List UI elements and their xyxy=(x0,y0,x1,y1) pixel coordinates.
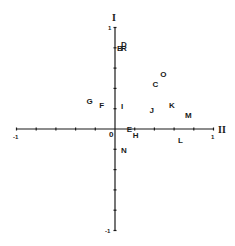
point-label-f: F xyxy=(99,101,104,110)
point-label-n: N xyxy=(121,146,127,155)
point-label-c: C xyxy=(152,80,158,89)
origin-label: 0 xyxy=(109,130,114,139)
point-label-k: K xyxy=(169,101,175,110)
y-max-tick-label: 1 xyxy=(108,25,112,31)
horizontal-axis-label: II xyxy=(218,124,226,135)
point-label-h: H xyxy=(133,131,139,140)
x-max-tick-label: 1 xyxy=(211,134,215,140)
point-label-i: I xyxy=(121,102,123,111)
point-labels: DBROCGFIJKMEHLN xyxy=(86,40,191,156)
x-min-tick-label: -1 xyxy=(13,134,19,140)
y-min-tick-label: -1 xyxy=(105,228,111,234)
point-label-m: M xyxy=(185,111,192,120)
point-label-l: L xyxy=(178,136,183,145)
point-label-r: R xyxy=(121,44,127,53)
point-label-j: J xyxy=(149,106,153,115)
point-label-g: G xyxy=(86,97,92,106)
biplot-diagram: I II 1 -1 -1 1 0 DBROCGFIJKMEHLN xyxy=(0,0,235,246)
point-label-o: O xyxy=(160,70,166,79)
axes xyxy=(16,28,213,231)
vertical-axis-label: I xyxy=(112,12,116,23)
